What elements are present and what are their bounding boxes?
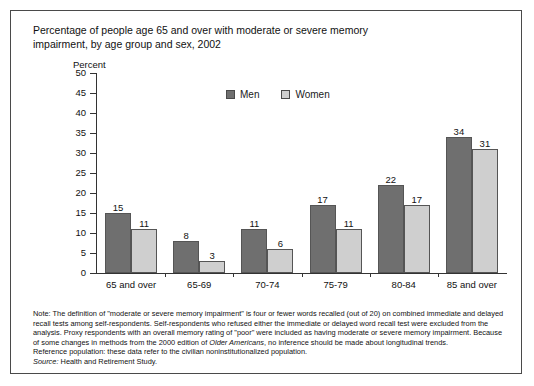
y-tick-label: 10 — [75, 227, 86, 238]
y-tick-label: 20 — [75, 187, 86, 198]
y-tick-label: 0 — [81, 267, 86, 278]
y-tick: 40 — [90, 113, 96, 114]
x-axis-category-label: 65 and over — [106, 279, 156, 290]
y-tick-mark — [90, 93, 96, 94]
bar-value-label: 6 — [278, 238, 283, 249]
bar-value-label: 3 — [210, 250, 215, 261]
x-axis-category-label: 80-84 — [392, 279, 416, 290]
y-tick-mark — [90, 73, 96, 74]
y-tick-label: 5 — [81, 247, 86, 258]
chart-figure-frame: Percentage of people age 65 and over wit… — [10, 10, 522, 374]
bar-group: 151165 and over — [105, 73, 157, 273]
y-tick: 10 — [90, 233, 96, 234]
note-body-continued: , no inference should be made about long… — [264, 338, 448, 347]
bar-men: 8 — [173, 241, 199, 273]
bar-group: 171175-79 — [310, 73, 362, 273]
bar-women: 11 — [131, 229, 157, 273]
chart-footnotes: Note: The definition of "moderate or sev… — [33, 309, 505, 367]
y-tick: 5 — [90, 253, 96, 254]
y-tick-label: 50 — [75, 67, 86, 78]
source-text: Health and Retirement Study. — [58, 357, 156, 366]
source-label: Source: — [33, 357, 58, 366]
y-tick: 50 — [90, 73, 96, 74]
y-tick: 35 — [90, 133, 96, 134]
reference-population: Reference population: these data refer t… — [33, 347, 505, 357]
y-tick-label: 25 — [75, 167, 86, 178]
note-paragraph: Note: The definition of "moderate or sev… — [33, 309, 505, 347]
y-tick-mark — [90, 153, 96, 154]
y-tick: 45 — [90, 93, 96, 94]
y-tick-mark — [90, 173, 96, 174]
bar-women: 3 — [199, 261, 225, 273]
x-axis-tick — [438, 273, 439, 277]
bar-group: 11670-74 — [241, 73, 293, 273]
bar-value-label: 8 — [184, 230, 189, 241]
y-tick-mark — [90, 273, 96, 274]
y-tick-mark — [90, 253, 96, 254]
note-italic-title: Older Americans — [209, 338, 264, 347]
bar-value-label: 17 — [317, 194, 328, 205]
bar-group: 221780-84 — [378, 73, 430, 273]
bar-men: 11 — [241, 229, 267, 273]
bar-value-label: 31 — [480, 138, 491, 149]
y-tick: 30 — [90, 153, 96, 154]
y-tick-label: 15 — [75, 207, 86, 218]
bar-value-label: 34 — [454, 126, 465, 137]
x-axis-tick — [370, 273, 371, 277]
bar-group: 343185 and over — [446, 73, 498, 273]
bar-women: 11 — [336, 229, 362, 273]
bar-value-label: 22 — [385, 174, 396, 185]
bar-value-label: 11 — [139, 218, 149, 229]
bar-group: 8365-69 — [173, 73, 225, 273]
y-tick: 0 — [90, 273, 96, 274]
bar-men: 17 — [310, 205, 336, 273]
x-axis-category-label: 75-79 — [323, 279, 347, 290]
y-tick-mark — [90, 133, 96, 134]
bar-men: 15 — [105, 213, 131, 273]
x-axis-category-label: 85 and over — [447, 279, 497, 290]
y-tick-label: 30 — [75, 147, 86, 158]
bar-women: 17 — [404, 205, 430, 273]
y-tick: 20 — [90, 193, 96, 194]
y-tick-mark — [90, 213, 96, 214]
x-axis-tick — [302, 273, 303, 277]
bar-value-label: 15 — [113, 202, 124, 213]
x-axis-category-label: 70-74 — [255, 279, 279, 290]
source-paragraph: Source: Health and Retirement Study. — [33, 357, 505, 367]
y-tick-label: 45 — [75, 87, 86, 98]
bar-men: 22 — [378, 185, 404, 273]
plot-area: 151165 and over8365-6911670-74171175-792… — [97, 73, 506, 273]
y-tick: 25 — [90, 173, 96, 174]
x-axis-tick — [233, 273, 234, 277]
y-tick-label: 35 — [75, 127, 86, 138]
y-tick-label: 40 — [75, 107, 86, 118]
y-tick-mark — [90, 113, 96, 114]
bar-value-label: 17 — [411, 194, 422, 205]
y-tick-mark — [90, 193, 96, 194]
x-axis-category-label: 65-69 — [187, 279, 211, 290]
y-tick-mark — [90, 233, 96, 234]
bar-women: 31 — [472, 149, 498, 273]
x-axis-tick — [165, 273, 166, 277]
bar-women: 6 — [267, 249, 293, 273]
bar-men: 34 — [446, 137, 472, 273]
bar-value-label: 11 — [344, 218, 354, 229]
bar-value-label: 11 — [249, 218, 259, 229]
y-tick: 15 — [90, 213, 96, 214]
note-label: Note: — [33, 309, 51, 318]
